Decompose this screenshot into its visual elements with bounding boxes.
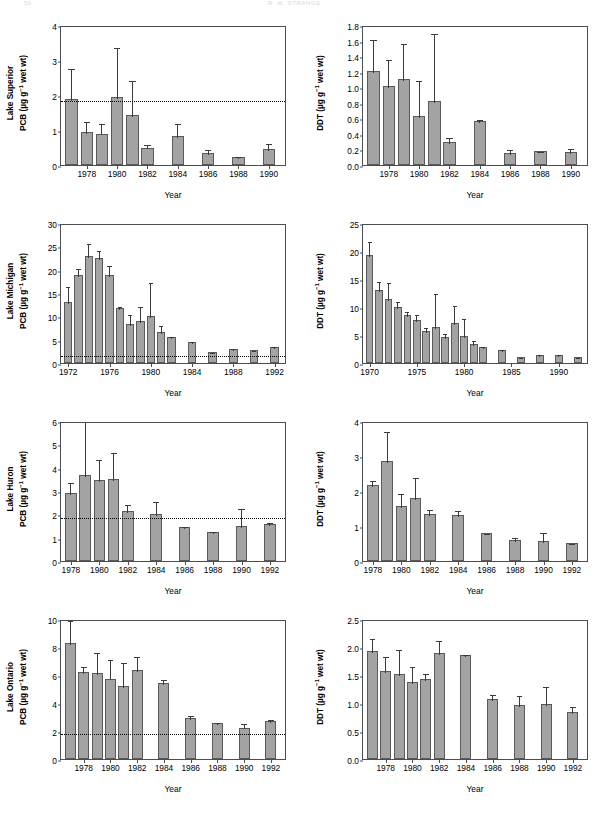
y-tick-label: 5 <box>17 337 61 347</box>
x-tick-label: 1982 <box>118 565 137 575</box>
x-tick-label: 1988 <box>510 763 529 773</box>
x-tick-mark <box>271 759 272 763</box>
y-tick-mark <box>360 225 364 226</box>
x-tick-mark <box>540 165 541 169</box>
bar <box>105 275 113 363</box>
x-tick-label: 1985 <box>502 367 521 377</box>
plot-area-lake-huron-ddt: 0123419781980198219841986198819901992 <box>362 422 588 562</box>
bar <box>65 99 77 165</box>
error-bar-cap <box>453 306 457 307</box>
error-bar-cap <box>266 144 272 145</box>
y-axis-label: DDT (µg g−1 wet wt) <box>306 216 332 366</box>
error-bar <box>156 502 157 516</box>
error-bar-cap <box>415 315 419 316</box>
x-tick-mark <box>458 561 459 565</box>
bar <box>136 321 144 363</box>
y-tick-label: 5 <box>319 332 363 342</box>
error-bar <box>546 687 547 706</box>
bar <box>420 679 431 759</box>
y-tick-mark <box>58 248 62 249</box>
chart-row: Lake HuronPCB (µg g−1 wet wt)01234561978… <box>0 414 608 612</box>
y-tick-label: 0.5 <box>319 728 363 738</box>
bar <box>81 132 93 165</box>
bar <box>172 136 184 165</box>
error-bar <box>78 269 79 277</box>
error-bar <box>70 483 71 494</box>
x-tick-label: 1988 <box>204 565 223 575</box>
x-tick-label: 1986 <box>175 565 194 575</box>
x-tick-label: 1986 <box>199 169 218 179</box>
x-tick-label: 1990 <box>537 763 556 773</box>
x-tick-mark <box>515 561 516 565</box>
error-bar-cap <box>396 302 400 303</box>
x-tick-mark <box>270 561 271 565</box>
x-tick-mark <box>164 759 165 763</box>
error-bar-cap <box>517 696 523 697</box>
error-bar-cap <box>512 538 518 539</box>
error-bar-cap <box>231 349 235 350</box>
y-tick-label: 4 <box>17 700 61 710</box>
error-bar-cap <box>377 282 381 283</box>
y-tick-mark <box>58 62 62 63</box>
x-tick-label: 1990 <box>534 565 553 575</box>
x-tick-label: 1978 <box>364 565 383 575</box>
y-tick-mark <box>360 42 364 43</box>
error-bar <box>70 621 71 645</box>
error-bar-cap <box>169 337 173 338</box>
y-tick-label: 0.4 <box>319 131 363 141</box>
x-tick-label: 1988 <box>506 565 525 575</box>
y-tick-mark <box>360 458 364 459</box>
x-tick-mark <box>99 561 100 565</box>
y-axis-label-units: DDT (µg g−1 wet wt) <box>312 649 326 725</box>
y-tick-mark <box>360 677 364 678</box>
bar <box>65 643 76 759</box>
bar <box>566 543 578 561</box>
bar <box>452 515 464 561</box>
y-tick-label: 0.6 <box>319 115 363 125</box>
y-tick-mark <box>58 677 62 678</box>
chart-row: Lake SuperiorPCB (µg g−1 wet wt)01234197… <box>0 18 608 216</box>
bar <box>410 498 422 561</box>
panel-lake-huron-pcb: Lake HuronPCB (µg g−1 wet wt)01234561978… <box>4 414 304 612</box>
error-bar <box>127 505 128 513</box>
y-tick-label: 2 <box>319 488 363 498</box>
x-tick-mark <box>244 759 245 763</box>
x-tick-mark <box>373 561 374 565</box>
error-bar <box>419 81 420 118</box>
y-tick-label: 3 <box>17 57 61 67</box>
x-tick-mark <box>412 759 413 763</box>
x-tick-mark <box>110 759 111 763</box>
panel-lake-superior-ddt: DDT (µg g−1 wet wt)0.00.20.40.60.81.01.2… <box>306 18 606 216</box>
error-bar-cap <box>188 716 194 717</box>
y-tick-label: 0 <box>319 360 363 370</box>
bar <box>383 86 395 165</box>
bar <box>236 526 248 561</box>
x-tick-label: 1990 <box>561 169 580 179</box>
x-tick-mark <box>137 759 138 763</box>
x-tick-label: 1986 <box>501 169 520 179</box>
bar <box>443 142 455 165</box>
x-tick-mark <box>242 561 243 565</box>
bar <box>105 679 116 760</box>
running-title: R. M. STRANGE <box>268 0 321 6</box>
bar <box>460 655 471 759</box>
error-bar-cap <box>427 510 433 511</box>
y-tick-label: 1.0 <box>319 700 363 710</box>
y-tick-mark <box>58 271 62 272</box>
error-bar-cap <box>252 351 256 352</box>
bar <box>367 651 378 759</box>
y-tick-mark <box>58 761 62 762</box>
x-tick-label: 1980 <box>108 169 127 179</box>
y-tick-label: 0 <box>17 162 61 172</box>
error-bar-cap <box>538 355 542 356</box>
x-tick-label: 1982 <box>128 763 147 773</box>
error-bar <box>425 674 426 682</box>
bar <box>74 275 82 363</box>
x-tick-label: 1986 <box>181 763 200 773</box>
x-tick-mark <box>217 759 218 763</box>
error-bar-cap <box>383 657 389 658</box>
panel-lake-superior-pcb: Lake SuperiorPCB (µg g−1 wet wt)01234197… <box>4 18 304 216</box>
error-bar <box>109 266 110 277</box>
error-bar <box>161 326 162 334</box>
error-bar <box>71 69 72 101</box>
